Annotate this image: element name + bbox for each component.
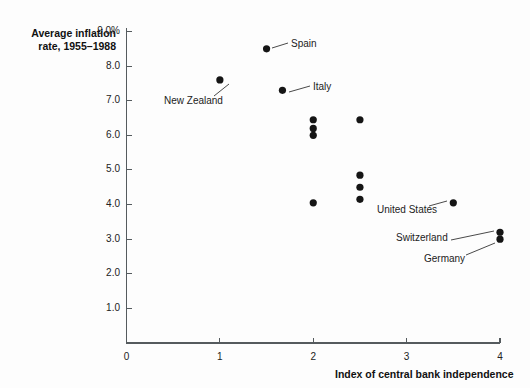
annotation-leader-lines xyxy=(214,43,495,255)
data-point-3 xyxy=(310,116,317,123)
axes xyxy=(127,28,501,344)
annotation-label-germany: Germany xyxy=(424,253,465,264)
y-tick-label-6.0: 6.0 xyxy=(76,129,120,140)
y-tick-label-2.0: 2.0 xyxy=(76,267,120,278)
data-point-7 xyxy=(356,116,363,123)
leader-line-switzerland xyxy=(451,231,494,240)
x-axis-title: Index of central bank independence xyxy=(335,368,514,380)
annotation-label-italy: Italy xyxy=(313,81,331,92)
x-tick-label-3: 3 xyxy=(392,351,422,362)
data-point-switzerland xyxy=(496,229,503,236)
data-point-germany xyxy=(496,236,503,243)
axis-ticks xyxy=(127,32,501,344)
scatter-chart: Average inflation rate, 1955–1988 Index … xyxy=(0,0,530,388)
data-point-6 xyxy=(310,199,317,206)
data-point-10 xyxy=(356,196,363,203)
y-tick-label-3.0: 3.0 xyxy=(76,233,120,244)
data-point-spain xyxy=(263,45,270,52)
y-axis-title-line2: rate, 1955–1988 xyxy=(38,40,116,52)
annotation-label-spain: Spain xyxy=(291,38,317,49)
y-tick-label-4.0: 4.0 xyxy=(76,198,120,209)
y-tick-label-5.0: 5.0 xyxy=(76,163,120,174)
plot-area xyxy=(0,0,530,388)
leader-line-spain xyxy=(272,43,288,48)
data-points xyxy=(216,45,503,243)
leader-line-germany xyxy=(466,243,495,255)
y-tick-label-8.0: 8.0 xyxy=(76,60,120,71)
data-point-9 xyxy=(356,184,363,191)
x-tick-label-2: 2 xyxy=(298,351,328,362)
x-tick-label-0: 0 xyxy=(112,351,142,362)
data-point-italy xyxy=(279,87,286,94)
x-tick-label-4: 4 xyxy=(485,351,515,362)
data-point-8 xyxy=(356,172,363,179)
annotation-label-united-states: United States xyxy=(377,204,437,215)
y-tick-label-9.0%: 9.0% xyxy=(76,25,120,36)
leader-line-italy xyxy=(289,86,310,92)
y-tick-label-1.0: 1.0 xyxy=(76,302,120,313)
data-point-new-zealand xyxy=(216,76,223,83)
y-tick-label-7.0: 7.0 xyxy=(76,94,120,105)
data-point-5 xyxy=(310,132,317,139)
annotation-label-switzerland: Switzerland xyxy=(396,232,448,243)
data-point-united-states xyxy=(450,199,457,206)
data-point-4 xyxy=(310,125,317,132)
x-tick-label-1: 1 xyxy=(205,351,235,362)
annotation-label-new-zealand: New Zealand xyxy=(164,95,223,106)
